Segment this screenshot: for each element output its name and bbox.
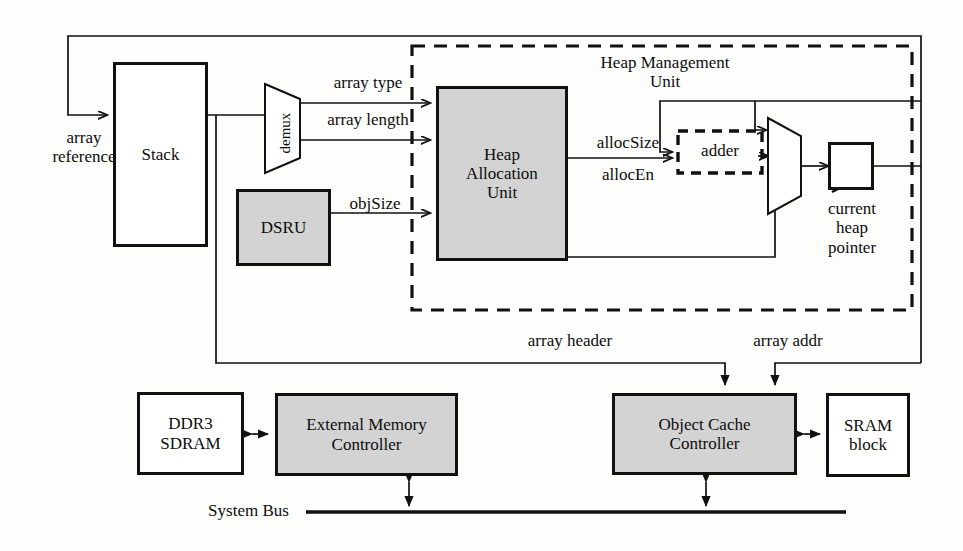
block-diagram-canvas: Stack DSRU Heap Allocation Unit DDR3 SDR… (0, 0, 963, 551)
label-array-addr: array addr (733, 331, 843, 350)
label-array-type: array type (308, 73, 428, 92)
label-system-bus: System Bus (196, 501, 301, 520)
block-heap-allocation-unit[interactable]: Heap Allocation Unit (436, 86, 568, 261)
wire-array-addr (775, 363, 921, 385)
adder-label: adder (678, 141, 762, 160)
block-dsru[interactable]: DSRU (236, 189, 331, 266)
demux-label: demux (277, 102, 294, 154)
block-object-cache-controller[interactable]: Object Cache Controller (612, 393, 797, 475)
block-external-memory-controller-label: External Memory Controller (306, 415, 426, 453)
block-heap-allocation-unit-label: Heap Allocation Unit (466, 145, 538, 202)
block-ddr3-sdram-label: DDR3 SDRAM (160, 414, 220, 452)
block-dsru-label: DSRU (261, 218, 306, 237)
block-current-heap-pointer-register[interactable] (828, 142, 874, 190)
wire-allocen (568, 190, 775, 257)
block-object-cache-controller-label: Object Cache Controller (658, 415, 750, 453)
block-ddr3-sdram[interactable]: DDR3 SDRAM (137, 392, 244, 475)
block-stack-label: Stack (142, 145, 180, 164)
label-array-header: array header (505, 331, 635, 350)
wire-chp-feedback-mux (755, 101, 766, 130)
block-sram-block[interactable]: SRAM block (826, 393, 910, 477)
label-array-reference: array reference (36, 128, 132, 167)
label-array-length: array length (303, 110, 433, 129)
mux-shape[interactable] (768, 118, 801, 214)
label-current-heap-pointer: current heap pointer (812, 199, 892, 257)
heap-management-unit-label: Heap Management Unit (600, 53, 730, 92)
label-allocsize: allocSize (578, 133, 678, 152)
label-objsize: objSize (330, 194, 420, 213)
label-allocen: allocEn (578, 165, 678, 184)
block-sram-block-label: SRAM block (844, 416, 892, 454)
block-external-memory-controller[interactable]: External Memory Controller (275, 393, 458, 476)
